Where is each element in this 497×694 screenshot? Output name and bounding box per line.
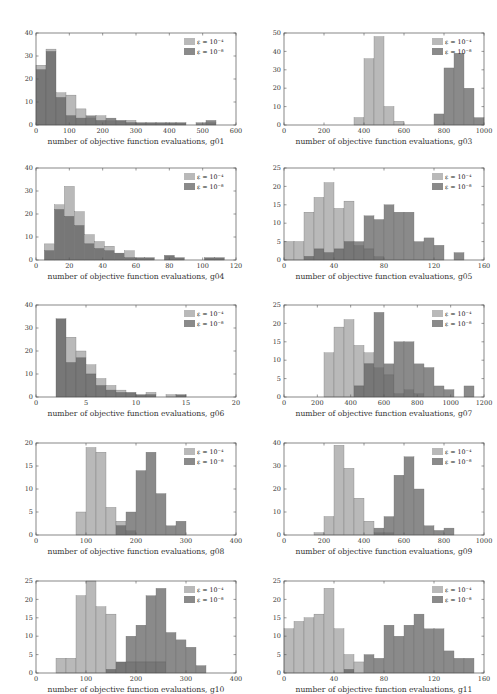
x-tick-label: 100 bbox=[63, 127, 75, 135]
histogram-bar bbox=[156, 588, 166, 662]
legend-label: ε = 10⁻⁴ bbox=[197, 586, 224, 593]
x-tick-label: 200 bbox=[130, 675, 142, 683]
histogram-bar bbox=[374, 528, 384, 533]
histogram-bar bbox=[64, 186, 74, 216]
histogram-bar bbox=[424, 526, 434, 535]
y-tick-label: 20 bbox=[273, 183, 281, 191]
x-tick-label: 80 bbox=[380, 675, 388, 683]
histogram-bar bbox=[404, 625, 414, 673]
histogram-bar-overlap bbox=[304, 256, 314, 260]
histogram-bar-overlap bbox=[106, 390, 116, 397]
y-tick-label: 0 bbox=[29, 531, 33, 539]
histogram-bar-overlap bbox=[76, 358, 86, 397]
histogram-bar bbox=[66, 658, 76, 673]
histogram-bar bbox=[166, 633, 176, 673]
histogram-bar bbox=[394, 342, 404, 394]
histogram-g04: 020406080100120010203040ε = 10⁻⁴ε = 10⁻⁸… bbox=[0, 135, 248, 271]
chart-svg: 040801201600510152025ε = 10⁻⁴ε = 10⁻⁸ bbox=[248, 548, 496, 684]
histogram-g03: 0200400600800100001020304050ε = 10⁻⁴ε = … bbox=[248, 0, 496, 136]
histogram-bar bbox=[46, 49, 56, 51]
histogram-bar-overlap bbox=[106, 120, 116, 125]
histogram-bar-overlap bbox=[104, 251, 114, 260]
histogram-bar bbox=[176, 640, 186, 673]
y-tick-label: 15 bbox=[25, 462, 33, 470]
histogram-bar bbox=[324, 353, 334, 397]
x-tick-label: 200 bbox=[318, 537, 330, 545]
histogram-bar bbox=[76, 512, 86, 535]
x-tick-label: 0 bbox=[282, 675, 286, 683]
x-tick-label: 120 bbox=[230, 262, 242, 270]
histogram-bar-overlap bbox=[76, 118, 86, 125]
histogram-bar bbox=[444, 390, 454, 397]
histogram-bar bbox=[334, 445, 344, 535]
histogram-bar bbox=[324, 517, 334, 535]
histogram-bar-overlap bbox=[66, 116, 76, 125]
x-tick-label: 200 bbox=[311, 399, 323, 407]
y-tick-label: 20 bbox=[273, 596, 281, 604]
histogram-bar bbox=[86, 116, 96, 118]
y-tick-label: 30 bbox=[273, 66, 281, 74]
x-tick-label: 300 bbox=[180, 537, 192, 545]
histogram-bar bbox=[464, 658, 474, 673]
histogram-bar bbox=[136, 625, 146, 662]
legend-label: ε = 10⁻⁸ bbox=[197, 48, 224, 55]
legend-label: ε = 10⁻⁸ bbox=[197, 458, 224, 465]
x-tick-label: 40 bbox=[330, 262, 338, 270]
histogram-bar bbox=[454, 658, 464, 673]
histogram-bar-overlap bbox=[126, 392, 136, 397]
y-tick-label: 0 bbox=[29, 256, 33, 264]
x-tick-label: 40 bbox=[99, 262, 107, 270]
x-tick-label: 160 bbox=[478, 262, 490, 270]
histogram-bar bbox=[424, 368, 434, 397]
histogram-bar bbox=[94, 242, 104, 249]
histogram-bar bbox=[314, 614, 324, 673]
histogram-bar-overlap bbox=[66, 363, 76, 398]
histogram-bar bbox=[86, 581, 96, 673]
y-tick-label: 10 bbox=[273, 103, 281, 111]
histogram-bar bbox=[424, 238, 434, 260]
histogram-g09: 02004006008001000010203040ε = 10⁻⁴ε = 10… bbox=[248, 410, 496, 546]
histogram-bar bbox=[344, 320, 354, 397]
histogram-bar bbox=[96, 116, 106, 121]
y-tick-label: 10 bbox=[273, 632, 281, 640]
histogram-bar bbox=[454, 253, 464, 260]
histogram-bar bbox=[434, 530, 444, 535]
histogram-bar-overlap bbox=[84, 244, 94, 260]
x-tick-label: 60 bbox=[132, 262, 140, 270]
x-tick-label: 1000 bbox=[476, 127, 493, 135]
histogram-bar-overlap bbox=[106, 669, 116, 673]
histogram-bar-overlap bbox=[74, 226, 84, 261]
y-tick-label: 10 bbox=[25, 485, 33, 493]
histogram-bar-overlap bbox=[96, 120, 106, 125]
y-tick-label: 0 bbox=[29, 121, 33, 129]
histogram-bar bbox=[106, 118, 116, 120]
y-tick-label: 20 bbox=[25, 210, 33, 218]
histogram-bar bbox=[464, 386, 474, 397]
histogram-bar-overlap bbox=[364, 249, 374, 260]
histogram-bar bbox=[136, 471, 146, 535]
histogram-bar bbox=[66, 95, 76, 116]
histogram-bar bbox=[334, 629, 344, 673]
legend-label: ε = 10⁻⁸ bbox=[445, 458, 472, 465]
histogram-bar bbox=[354, 242, 364, 246]
histogram-bar bbox=[126, 636, 136, 662]
legend-swatch-dark bbox=[184, 320, 195, 327]
y-tick-label: 10 bbox=[273, 508, 281, 516]
histogram-bar bbox=[364, 216, 374, 249]
x-tick-label: 1200 bbox=[476, 399, 493, 407]
y-tick-label: 0 bbox=[29, 669, 33, 677]
legend-swatch-dark bbox=[432, 183, 443, 190]
y-tick-label: 40 bbox=[25, 164, 33, 172]
x-tick-label: 800 bbox=[438, 537, 450, 545]
histogram-bar bbox=[196, 666, 206, 673]
histogram-bar bbox=[56, 93, 66, 98]
histogram-bar bbox=[74, 212, 84, 226]
histogram-bar bbox=[86, 448, 96, 535]
legend-swatch-dark bbox=[184, 48, 195, 55]
legend-label: ε = 10⁻⁴ bbox=[445, 586, 472, 593]
x-tick-label: 500 bbox=[196, 127, 208, 135]
y-tick-label: 30 bbox=[273, 462, 281, 470]
y-tick-label: 40 bbox=[273, 439, 281, 447]
x-tick-label: 200 bbox=[96, 127, 108, 135]
x-tick-label: 5 bbox=[84, 399, 88, 407]
